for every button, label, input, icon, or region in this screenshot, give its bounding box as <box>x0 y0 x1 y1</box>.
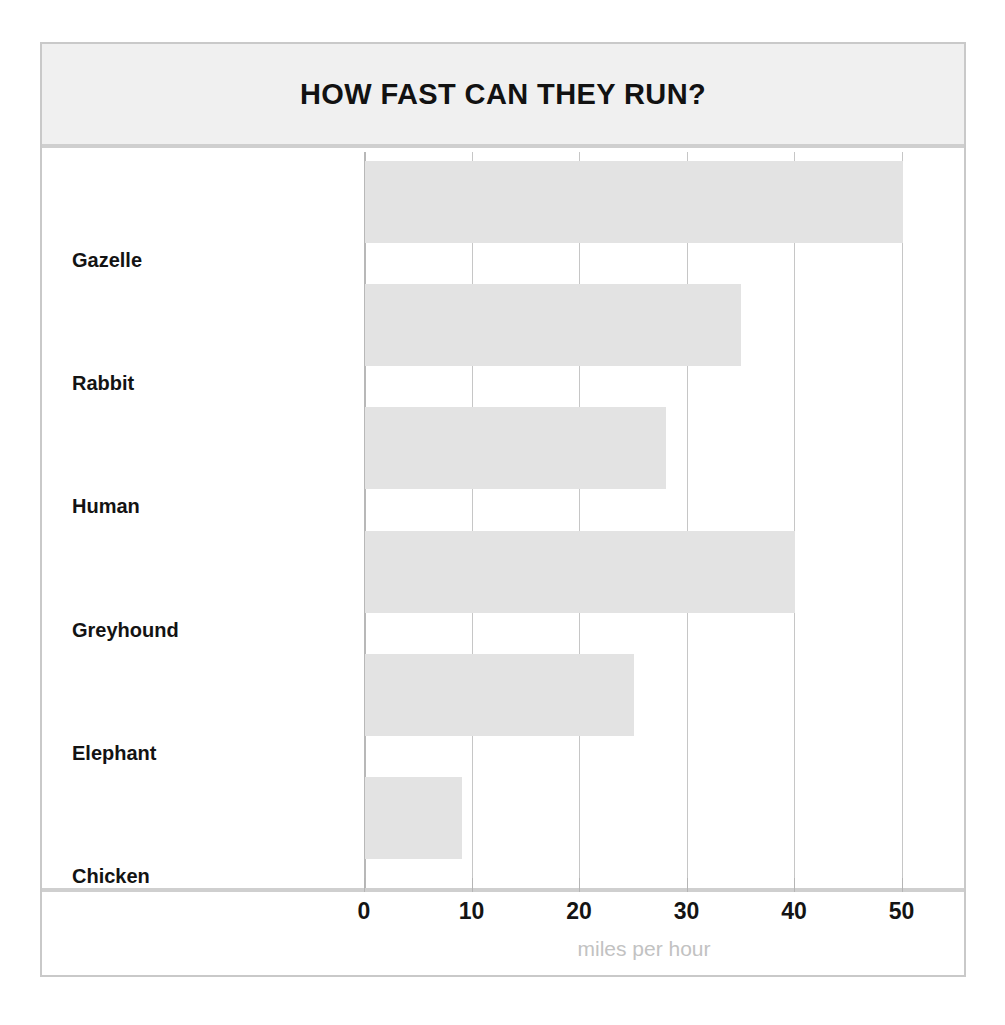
tick-mark-30 <box>687 878 688 892</box>
bar-gazelle <box>365 161 903 243</box>
category-label-gazelle: Gazelle <box>72 249 142 272</box>
plot-region: GazelleRabbitHumanGreyhoundElephantChick… <box>42 152 964 892</box>
tick-label-30: 30 <box>674 898 700 925</box>
gridline-30 <box>687 152 688 888</box>
bar-rabbit <box>365 284 741 366</box>
plot-area <box>324 152 964 888</box>
value-axis: 01020304050 <box>324 892 964 938</box>
category-label-greyhound: Greyhound <box>72 619 179 642</box>
tick-mark-0 <box>364 878 365 892</box>
tick-label-0: 0 <box>358 898 371 925</box>
tick-mark-10 <box>472 878 473 892</box>
page-title: HOW FAST CAN THEY RUN? <box>300 78 706 111</box>
gridline-10 <box>472 152 473 888</box>
bar-elephant <box>365 654 634 736</box>
gridline-40 <box>794 152 795 888</box>
tick-mark-50 <box>902 878 903 892</box>
category-label-elephant: Elephant <box>72 742 156 765</box>
category-label-chicken: Chicken <box>72 865 150 888</box>
tick-mark-40 <box>794 878 795 892</box>
x-axis-label: miles per hour <box>324 937 964 961</box>
category-label-human: Human <box>72 495 140 518</box>
bar-greyhound <box>365 531 795 613</box>
category-axis: GazelleRabbitHumanGreyhoundElephantChick… <box>42 152 324 888</box>
tick-label-20: 20 <box>566 898 592 925</box>
gridline-50 <box>902 152 903 888</box>
tick-label-40: 40 <box>781 898 807 925</box>
bar-human <box>365 407 666 489</box>
chart-figure: HOW FAST CAN THEY RUN? GazelleRabbitHuma… <box>40 42 966 977</box>
gridline-20 <box>579 152 580 888</box>
bar-chicken <box>365 777 462 859</box>
tick-label-10: 10 <box>459 898 485 925</box>
category-label-rabbit: Rabbit <box>72 372 134 395</box>
tick-mark-20 <box>579 878 580 892</box>
chart-title-band: HOW FAST CAN THEY RUN? <box>42 44 964 148</box>
tick-label-50: 50 <box>889 898 915 925</box>
